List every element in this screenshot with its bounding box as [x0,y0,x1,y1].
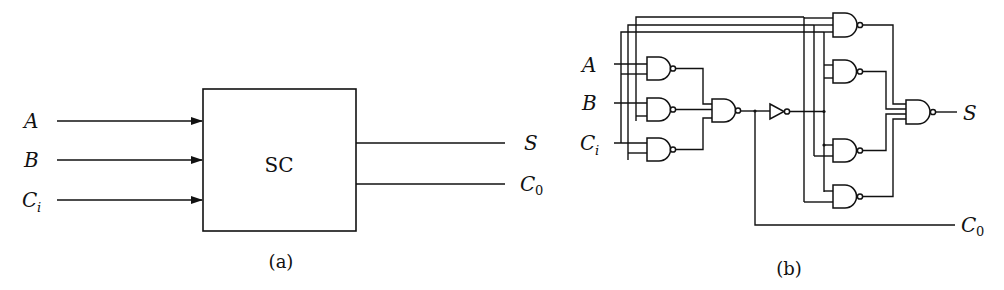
sum-stage-wires [863,25,906,197]
output-c0-label: C [520,172,535,196]
nand-gate-final [906,100,957,124]
output-c0-subscript-b: 0 [976,224,984,239]
input-ci: C i [22,188,202,215]
input-ci-label-b: C [580,131,595,155]
inverter [770,104,824,119]
output-s-label: S [524,131,538,155]
output-c0: C 0 [356,172,543,198]
stage1-to-stage2-wires [676,69,712,150]
panel-b: A B C i [580,13,984,279]
nand-gate-2 [647,98,676,121]
caption-a: (a) [269,251,294,272]
nand-gate-carry [712,99,741,122]
nand-gate-sum-2 [824,60,863,83]
panel-a: SC A B C i S C 0 (a) [22,89,543,272]
diagram-canvas: SC A B C i S C 0 (a) A B C [0,0,1004,290]
sc-block-label: SC [264,153,293,177]
output-c0-label-b: C [961,213,976,237]
nand-gate-sum-4 [804,185,863,208]
right-buses [804,17,826,202]
input-ci-label: C [22,188,37,212]
input-b-label-b: B [581,91,597,115]
input-a-label-b: A [580,53,596,77]
nand-gate-1 [647,57,676,80]
input-ci-subscript-b: i [595,143,599,158]
output-s-label-b: S [963,101,977,125]
input-a-label: A [22,109,38,133]
caption-b: (b) [776,258,802,279]
input-b: B [23,148,202,172]
input-ci-subscript: i [37,200,41,215]
input-b-label: B [23,148,39,172]
output-c0-subscript: 0 [535,183,543,198]
output-s: S [356,131,538,155]
input-a: A [22,109,202,133]
nand-gate-3 [647,138,676,161]
input-wires [614,64,647,143]
nand-gate-sum-3 [814,139,863,162]
